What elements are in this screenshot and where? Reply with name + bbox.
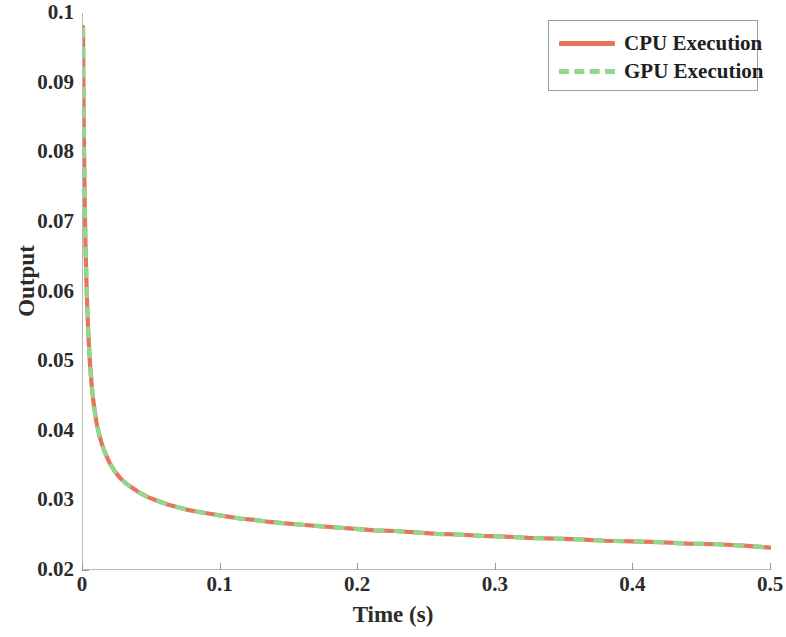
chart-figure: Output 0.020.030.040.050.060.070.080.090… [0, 0, 786, 637]
x-axis-tick-label: 0.1 [206, 572, 232, 597]
x-axis-title: Time (s) [0, 602, 786, 628]
y-axis-tick-label: 0.04 [0, 418, 74, 443]
y-axis-tick-label: 0.09 [0, 70, 74, 95]
series-line-cpu-execution [83, 27, 771, 548]
legend-swatch-cpu-line [559, 41, 615, 46]
plot-area [82, 13, 770, 570]
y-axis-tick-label: 0.05 [0, 348, 74, 373]
series-line-gpu-execution [83, 27, 771, 548]
y-axis-tick-mark [82, 570, 89, 571]
y-axis-tick-label: 0.06 [0, 279, 74, 304]
data-series-canvas [83, 13, 771, 570]
legend-item-cpu-execution: CPU Execution [549, 29, 757, 57]
x-axis-tick-label: 0.3 [482, 572, 508, 597]
x-axis-tick-mark [220, 563, 221, 570]
legend-label-cpu-execution: CPU Execution [624, 33, 762, 54]
x-axis-tick-label: 0.5 [757, 572, 783, 597]
y-axis-tick-label: 0.08 [0, 139, 74, 164]
x-axis-tick-mark [357, 563, 358, 570]
x-axis-tick-label: 0 [77, 572, 88, 597]
x-axis-tick-label: 0.4 [619, 572, 645, 597]
y-axis-tick-label: 0.07 [0, 209, 74, 234]
chart-legend: CPU Execution GPU Execution [548, 20, 758, 91]
x-axis-tick-mark [82, 563, 83, 570]
x-axis-tick-mark [495, 563, 496, 570]
legend-swatch-gpu-line [559, 69, 615, 74]
legend-item-gpu-execution: GPU Execution [549, 57, 757, 85]
y-axis-tick-label: 0.1 [0, 0, 74, 25]
x-axis-tick-mark [770, 563, 771, 570]
y-axis-tick-label: 0.03 [0, 487, 74, 512]
x-axis-tick-label: 0.2 [344, 572, 370, 597]
legend-label-gpu-execution: GPU Execution [624, 61, 763, 82]
y-axis-tick-label: 0.02 [0, 557, 74, 582]
x-axis-tick-mark [632, 563, 633, 570]
